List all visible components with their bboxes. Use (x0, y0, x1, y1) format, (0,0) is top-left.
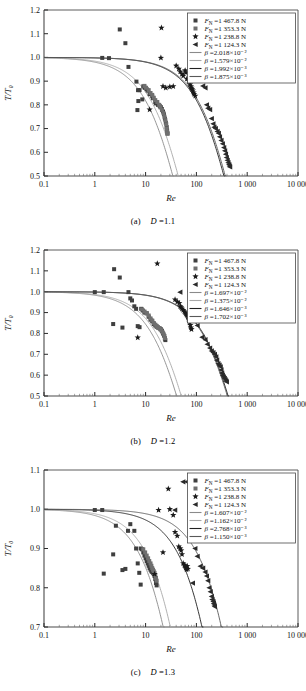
x-axis-title: Re (165, 193, 176, 203)
legend-label: β =1.150×10⁻³ (204, 533, 247, 541)
x-tick-label: 1 (93, 400, 97, 409)
x-tick-label: 0.1 (39, 180, 49, 189)
data-point-square (111, 322, 115, 326)
fitted-curve (44, 58, 174, 176)
data-point-square (138, 325, 142, 329)
data-point-triangle (208, 589, 213, 594)
x-tick-label: 1 (93, 180, 97, 189)
x-tick-label: 10 (142, 631, 150, 640)
y-tick-label: 0.8 (30, 584, 40, 593)
data-point-square (93, 290, 97, 294)
x-tick-label: 10 (142, 180, 150, 189)
fitted-curve (44, 58, 179, 176)
data-point-square (107, 56, 111, 60)
chart-legend: FN =1 467.8 NFN =1 353.3 NFN =1 238.8 NF… (188, 473, 296, 543)
data-point-square (123, 567, 127, 571)
y-tick-label: 0.5 (30, 172, 40, 181)
data-point-triangle (209, 116, 214, 121)
y-tick-label: 1.1 (30, 30, 40, 39)
data-point-square (155, 579, 159, 583)
chart-legend: FN =1 467.8 NFN =1 353.3 NFN =1 238.8 NF… (188, 13, 296, 83)
plot-area-c: 0.11101001 00010 0000.70.80.91.01.1T/T₀R… (0, 460, 306, 673)
x-tick-label: 10 000 (287, 631, 306, 640)
data-point-square (118, 276, 122, 280)
y-tick-label: 0.9 (30, 77, 40, 86)
x-tick-label: 10 000 (287, 180, 306, 189)
data-point-star (158, 24, 164, 30)
y-tick-label: 0.6 (30, 371, 40, 380)
data-point-triangle (194, 554, 199, 559)
data-point-triangle (199, 335, 204, 340)
fitted-curve (44, 292, 182, 396)
fitted-curve (44, 292, 177, 396)
data-point-square (194, 487, 198, 491)
legend-label: β =1.702×10⁻³ (204, 313, 247, 321)
data-point-square (194, 259, 198, 263)
chart-panel-a: 0.11101001 00010 0000.50.60.70.80.91.01.… (0, 0, 306, 240)
data-point-square (164, 122, 168, 126)
data-point-square (137, 571, 141, 575)
data-point-triangle (206, 585, 211, 590)
data-point-square (102, 572, 106, 576)
data-point-square (112, 267, 116, 271)
data-point-star (158, 55, 164, 61)
x-tick-label: 0.1 (39, 400, 49, 409)
data-point-star (165, 486, 171, 492)
y-tick-label: 0.7 (30, 124, 40, 133)
y-tick-label: 1.1 (30, 267, 40, 276)
data-point-square (162, 115, 166, 119)
x-axis-title: Re (165, 413, 176, 423)
legend-label: β =2.018×10⁻² (204, 49, 247, 57)
x-tick-label: 0.1 (39, 631, 49, 640)
y-axis-title: T/T₀ (3, 541, 13, 557)
legend-label: β =1.162×10⁻² (204, 517, 247, 525)
x-tick-label: 100 (190, 180, 202, 189)
data-point-star (167, 506, 173, 512)
x-tick-label: 10 000 (287, 400, 306, 409)
data-point-star (174, 533, 180, 539)
x-tick-label: 1 000 (238, 631, 256, 640)
x-axis-ticks: 0.11101001 00010 000 (39, 623, 306, 640)
data-point-square (136, 561, 140, 565)
data-point-star (146, 106, 152, 112)
data-point-square (102, 290, 106, 294)
data-point-square (100, 508, 104, 512)
data-point-square (155, 583, 159, 587)
legend-label: β =1.375×10⁻² (204, 297, 247, 305)
legend-label: β =1.579×10⁻² (204, 57, 247, 65)
y-tick-label: 1.2 (30, 246, 40, 255)
data-point-square (118, 27, 122, 31)
legend-label: β =2.768×10⁻³ (204, 525, 247, 533)
y-tick-label: 1.0 (30, 288, 40, 297)
data-point-square (134, 80, 138, 84)
data-point-square (134, 547, 138, 551)
data-point-square (130, 298, 134, 302)
x-tick-label: 1 000 (238, 180, 256, 189)
legend-label: β =1.607×10⁻² (204, 509, 247, 517)
data-point-square (111, 552, 115, 556)
x-tick-label: 10 (142, 400, 150, 409)
y-tick-label: 0.7 (30, 623, 40, 632)
chart-panel-c: 0.11101001 00010 0000.70.80.91.01.1T/T₀R… (0, 460, 306, 691)
x-axis-title: Re (165, 644, 176, 654)
data-point-square (135, 108, 139, 112)
plot-area-a: 0.11101001 00010 0000.50.60.70.80.91.01.… (0, 0, 306, 222)
chart-svg: 0.11101001 00010 0000.70.80.91.01.1T/T₀R… (0, 460, 306, 673)
y-axis-ticks: 0.50.60.70.80.91.01.11.2 (30, 6, 48, 181)
data-point-square (120, 326, 124, 330)
x-tick-label: 1 (93, 631, 97, 640)
figure-container: 0.11101001 00010 0000.50.60.70.80.91.01.… (0, 0, 306, 691)
data-point-triangle (177, 290, 182, 295)
data-point-square (194, 479, 198, 483)
data-point-square (126, 290, 130, 294)
data-point-star (154, 260, 160, 266)
plot-area-b: 0.11101001 00010 0000.50.60.70.80.91.01.… (0, 240, 306, 442)
y-tick-label: 1.0 (30, 53, 40, 62)
y-tick-label: 1.1 (30, 466, 40, 475)
data-point-square (126, 65, 130, 69)
legend-label: β =1.992×10⁻³ (204, 65, 247, 73)
legend-label: β =1.697×10⁻² (204, 289, 247, 297)
legend-label: β =1.875×10⁻³ (204, 73, 247, 81)
y-tick-label: 0.9 (30, 544, 40, 553)
data-point-square (194, 267, 198, 271)
